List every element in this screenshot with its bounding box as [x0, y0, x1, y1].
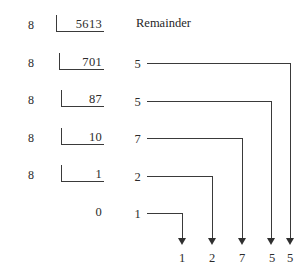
connector-vertical-1 — [290, 63, 291, 240]
remainder-digit-2: 5 — [133, 96, 142, 109]
result-digit-2: 2 — [206, 252, 218, 265]
result-digit-4: 5 — [266, 252, 278, 265]
connector-arrowhead-5 — [178, 238, 186, 245]
connector-arrowhead-4 — [208, 238, 216, 245]
dividend-row-4: 10 — [66, 131, 102, 144]
division-bracket-vertical-row-3 — [61, 90, 62, 107]
remainder-column-header: Remainder — [136, 17, 191, 30]
dividend-row-6: 0 — [66, 206, 102, 219]
octal-division-diagram: 8 5613 8 701 8 87 8 10 8 1 0 Remainder 5… — [0, 0, 308, 273]
division-bracket-vertical-row-1 — [56, 15, 57, 32]
connector-vertical-5 — [182, 213, 183, 240]
connector-arrowhead-2 — [267, 238, 275, 245]
connector-vertical-4 — [212, 176, 213, 240]
remainder-digit-1: 5 — [133, 58, 142, 71]
connector-horizontal-4 — [147, 176, 213, 177]
division-bracket-underline-row-3 — [61, 106, 104, 107]
division-bracket-underline-row-5 — [61, 181, 104, 182]
dividend-row-5: 1 — [66, 168, 102, 181]
connector-horizontal-5 — [147, 213, 183, 214]
division-bracket-underline-row-2 — [59, 69, 104, 70]
connector-horizontal-3 — [147, 138, 243, 139]
result-digit-5: 5 — [284, 252, 296, 265]
remainder-digit-4: 2 — [133, 171, 142, 184]
division-bracket-vertical-row-5 — [61, 165, 62, 182]
connector-vertical-3 — [242, 138, 243, 240]
remainder-digit-3: 7 — [133, 133, 142, 146]
divisor-row-3: 8 — [24, 94, 38, 106]
connector-arrowhead-1 — [286, 238, 294, 245]
divisor-row-5: 8 — [24, 169, 38, 181]
connector-vertical-2 — [271, 101, 272, 240]
result-digit-1: 1 — [176, 252, 188, 265]
division-bracket-underline-row-1 — [56, 31, 104, 32]
division-bracket-vertical-row-2 — [59, 53, 60, 70]
connector-arrowhead-3 — [238, 238, 246, 245]
divisor-row-2: 8 — [24, 57, 38, 69]
remainder-digit-5: 1 — [133, 208, 142, 221]
division-bracket-vertical-row-4 — [61, 128, 62, 145]
dividend-row-3: 87 — [66, 93, 102, 106]
dividend-row-1: 5613 — [62, 18, 102, 31]
divisor-row-4: 8 — [24, 132, 38, 144]
connector-horizontal-2 — [147, 101, 272, 102]
dividend-row-2: 701 — [64, 56, 102, 69]
connector-horizontal-1 — [147, 63, 291, 64]
result-digit-3: 7 — [236, 252, 248, 265]
divisor-row-1: 8 — [24, 19, 38, 31]
division-bracket-underline-row-4 — [61, 144, 104, 145]
